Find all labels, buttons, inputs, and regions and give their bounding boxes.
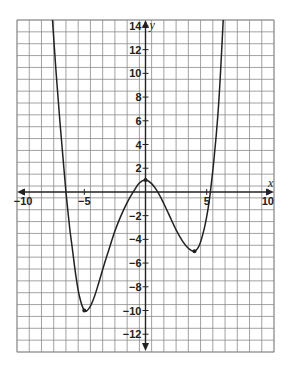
y-tick-label: 14: [129, 20, 142, 32]
y-tick-label: −10: [123, 305, 142, 317]
y-tick-label: −12: [123, 328, 142, 340]
y-tick-label: 6: [135, 115, 141, 127]
extremum-point: [82, 309, 86, 313]
y-tick-label: 4: [135, 139, 142, 151]
x-tick-label: −10: [14, 195, 33, 207]
y-tick-label: −2: [129, 210, 142, 222]
x-axis-label: x: [267, 176, 274, 190]
extremum-point: [144, 178, 148, 182]
function-graph: −10−55101412108642−2−4−6−8−10−12 x y: [0, 0, 290, 379]
y-tick-label: 8: [135, 91, 141, 103]
y-tick-label: 12: [129, 44, 141, 56]
x-tick-label: 10: [262, 195, 274, 207]
extremum-point: [192, 249, 196, 253]
y-tick-label: −6: [129, 257, 142, 269]
y-tick-label: 2: [135, 162, 141, 174]
x-tick-label: −5: [78, 195, 91, 207]
y-tick-label: −8: [129, 281, 142, 293]
y-tick-label: 10: [129, 67, 141, 79]
y-axis-label: y: [149, 18, 156, 32]
y-tick-label: −4: [129, 233, 142, 245]
